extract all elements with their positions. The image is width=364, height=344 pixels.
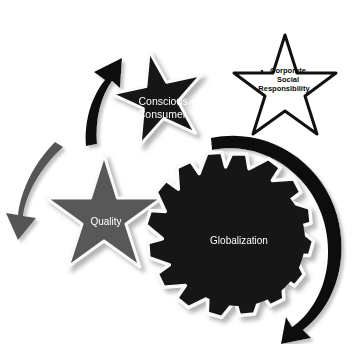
- quality-star-label: Quality: [90, 216, 121, 227]
- corporate-social-responsibility-star: • Corporate Social Responsibility: [234, 35, 336, 134]
- globalization-gear: Globalization: [146, 152, 314, 317]
- conscious-consumer-label-line-2: Consumer: [138, 108, 187, 120]
- csr-bullet-icon: •: [261, 66, 264, 75]
- conscious-consumer-star: Conscious Consumer: [104, 42, 213, 149]
- diagram-canvas: Quality Globalization • Corporate Social…: [0, 0, 364, 344]
- csr-label-line-3: Responsibility: [258, 84, 310, 93]
- quality-star: Quality: [46, 155, 162, 267]
- conscious-consumer-label-line-1: Conscious: [138, 95, 187, 107]
- csr-label-line-2: Social: [277, 75, 299, 84]
- csr-label-line-1: Corporate: [270, 66, 306, 75]
- globalization-gear-label: Globalization: [210, 235, 268, 246]
- concept-diagram: Quality Globalization • Corporate Social…: [0, 0, 364, 344]
- black-arrow-top: [86, 58, 122, 146]
- gray-arrow-left: [6, 142, 63, 240]
